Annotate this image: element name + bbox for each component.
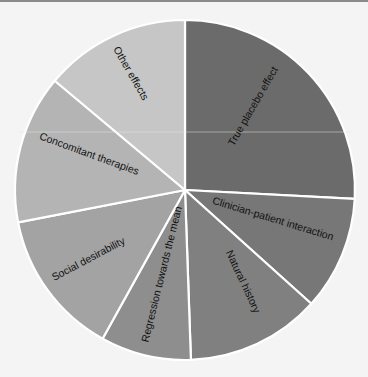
pie-slice-true-placebo-effect bbox=[185, 20, 355, 199]
pie-chart: True placebo effect Clinician-patient in… bbox=[0, 0, 368, 377]
pie-slices bbox=[15, 20, 355, 360]
